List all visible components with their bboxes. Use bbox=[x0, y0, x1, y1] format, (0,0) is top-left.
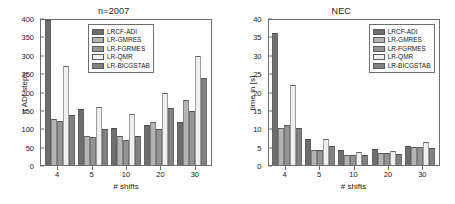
y-axis-tick-mark bbox=[40, 110, 44, 111]
x-axis-tick-mark bbox=[92, 166, 93, 170]
plot-area: LRCF-ADILR-GMRESLR-FGRMESLR-QMRLR-BICGST… bbox=[268, 19, 440, 166]
legend-swatch-icon bbox=[373, 46, 385, 52]
plot-area: LRCF-ADILR-GMRESLR-FGRMESLR-QMRLR-BICGST… bbox=[40, 19, 212, 166]
y-axis-tick-label: 25 bbox=[253, 70, 261, 79]
legend-item: LR-QMR bbox=[373, 53, 431, 61]
y-axis-tick-label: 350 bbox=[21, 33, 34, 42]
legend-swatch-icon bbox=[92, 37, 104, 43]
y-axis-tick-mark bbox=[40, 74, 44, 75]
bar bbox=[396, 154, 402, 165]
bar bbox=[429, 148, 435, 165]
bar-group bbox=[177, 20, 207, 165]
chart-panel-left: n=2007 # ADI steps 050100150200250300350… bbox=[0, 0, 228, 204]
y-axis-tick-label: 150 bbox=[21, 106, 34, 115]
legend-swatch-icon bbox=[373, 54, 385, 60]
legend-item-label: LR-GMRES bbox=[388, 36, 422, 44]
x-axis-tick-label: 5 bbox=[317, 170, 321, 179]
legend: LRCF-ADILR-GMRESLR-FGRMESLR-QMRLR-BICGST… bbox=[369, 24, 435, 73]
x-axis-tick-mark bbox=[388, 166, 389, 170]
y-axis-tick-label: 35 bbox=[253, 33, 261, 42]
x-axis-tick-label: 4 bbox=[283, 170, 287, 179]
legend-item-label: LR-QMR bbox=[107, 53, 133, 61]
legend-item-label: LR-BICGSTAB bbox=[388, 62, 431, 70]
legend-item: LR-QMR bbox=[92, 53, 150, 61]
x-axis-ticks: 45102030 bbox=[40, 166, 212, 182]
bar bbox=[296, 128, 302, 165]
y-axis-ticks: 050100150200250300350400 bbox=[0, 19, 38, 166]
legend-swatch-icon bbox=[92, 46, 104, 52]
x-axis-tick-label: 30 bbox=[191, 170, 199, 179]
x-axis-tick-mark bbox=[319, 166, 320, 170]
y-axis-tick-mark bbox=[40, 19, 44, 20]
x-axis-tick-label: 10 bbox=[349, 170, 357, 179]
bar-group bbox=[305, 20, 335, 165]
legend-item-label: LR-FGRMES bbox=[388, 45, 426, 53]
x-axis-ticks: 45102030 bbox=[268, 166, 440, 182]
y-axis-tick-label: 400 bbox=[21, 15, 34, 24]
x-axis-tick-mark bbox=[126, 166, 127, 170]
bar bbox=[69, 115, 75, 165]
legend-item: LR-BICGSTAB bbox=[92, 62, 150, 70]
x-axis-label: # shifts bbox=[268, 182, 440, 191]
figure-two-bar-charts: n=2007 # ADI steps 050100150200250300350… bbox=[0, 0, 455, 204]
y-axis-tick-label: 15 bbox=[253, 106, 261, 115]
legend-swatch-icon bbox=[92, 29, 104, 35]
x-axis-tick-label: 4 bbox=[55, 170, 59, 179]
chart-title: n=2007 bbox=[0, 6, 228, 16]
y-axis-tick-label: 50 bbox=[26, 143, 34, 152]
legend-swatch-icon bbox=[373, 29, 385, 35]
x-axis-tick-mark bbox=[354, 166, 355, 170]
y-axis-tick-mark bbox=[40, 147, 44, 148]
y-axis-tick-mark bbox=[268, 74, 272, 75]
legend-item: LR-FGRMES bbox=[373, 45, 431, 53]
bar bbox=[362, 155, 368, 165]
y-axis-tick-mark bbox=[40, 166, 44, 167]
legend-item: LRCF-ADI bbox=[373, 28, 431, 36]
bar bbox=[329, 146, 335, 165]
bar bbox=[102, 129, 108, 165]
bar-group bbox=[338, 20, 368, 165]
x-axis-tick-label: 20 bbox=[156, 170, 164, 179]
y-axis-tick-mark bbox=[40, 129, 44, 130]
y-axis-tick-mark bbox=[40, 55, 44, 56]
legend-item-label: LR-QMR bbox=[388, 53, 414, 61]
legend-item-label: LR-BICGSTAB bbox=[107, 62, 150, 70]
x-axis-tick-mark bbox=[422, 166, 423, 170]
legend-swatch-icon bbox=[92, 63, 104, 69]
legend-item: LR-GMRES bbox=[373, 36, 431, 44]
x-axis-tick-label: 5 bbox=[90, 170, 94, 179]
y-axis-tick-mark bbox=[268, 110, 272, 111]
x-axis-tick-mark bbox=[285, 166, 286, 170]
x-axis-tick-label: 30 bbox=[418, 170, 426, 179]
y-axis-tick-label: 100 bbox=[21, 125, 34, 134]
y-axis-tick-label: 200 bbox=[21, 88, 34, 97]
bar bbox=[201, 78, 207, 165]
x-axis-tick-label: 10 bbox=[122, 170, 130, 179]
legend-item: LR-GMRES bbox=[92, 36, 150, 44]
bar bbox=[168, 108, 174, 165]
legend-item: LR-BICGSTAB bbox=[373, 62, 431, 70]
x-axis-tick-mark bbox=[57, 166, 58, 170]
legend-item-label: LRCF-ADI bbox=[107, 28, 137, 36]
x-axis-tick-label: 20 bbox=[384, 170, 392, 179]
y-axis-tick-label: 0 bbox=[257, 162, 261, 171]
y-axis-tick-mark bbox=[268, 55, 272, 56]
chart-title: NEC bbox=[228, 6, 455, 16]
y-axis-tick-mark bbox=[40, 37, 44, 38]
y-axis-tick-label: 250 bbox=[21, 70, 34, 79]
legend-item-label: LR-GMRES bbox=[107, 36, 141, 44]
legend-swatch-icon bbox=[92, 54, 104, 60]
y-axis-tick-label: 30 bbox=[253, 51, 261, 60]
y-axis-tick-mark bbox=[268, 92, 272, 93]
y-axis-ticks: 0510152025303540 bbox=[228, 19, 266, 166]
y-axis-tick-label: 40 bbox=[253, 15, 261, 24]
bar-group bbox=[45, 20, 75, 165]
x-axis-tick-mark bbox=[195, 166, 196, 170]
y-axis-tick-label: 0 bbox=[30, 162, 34, 171]
y-axis-tick-mark bbox=[268, 166, 272, 167]
legend-swatch-icon bbox=[373, 63, 385, 69]
legend-item: LR-FGRMES bbox=[92, 45, 150, 53]
y-axis-tick-mark bbox=[268, 37, 272, 38]
y-axis-tick-label: 5 bbox=[257, 143, 261, 152]
chart-panel-right: NEC time in [s] 0510152025303540 LRCF-AD… bbox=[228, 0, 455, 204]
